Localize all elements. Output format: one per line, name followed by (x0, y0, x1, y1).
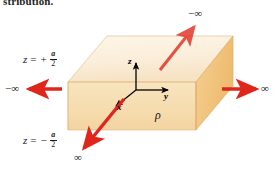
extent-arrow-front-left-label: ∞ (74, 152, 82, 163)
extent-arrow-back-right-label: −∞ (188, 8, 202, 19)
top-plane-sign: + (40, 54, 48, 65)
top-plane-boundary-label: z = + a 2 (23, 50, 57, 69)
bottom-plane-numerator: a (50, 131, 56, 139)
top-plane-denominator: 2 (50, 60, 56, 68)
bottom-plane-boundary-label: z = − a 2 (23, 131, 57, 150)
top-plane-variable: z (23, 54, 27, 65)
bottom-plane-equals: = (29, 135, 37, 146)
axis-z-label: z (128, 57, 132, 66)
extent-arrow-right-label: ∞ (261, 83, 269, 94)
bottom-plane-variable: z (23, 135, 27, 146)
bottom-plane-sign: − (40, 135, 48, 146)
top-plane-numerator: a (50, 50, 56, 58)
bottom-plane-fraction: a 2 (50, 131, 57, 150)
top-plane-equals: = (29, 54, 37, 65)
slab-of-charge-figure: stribution. (0, 0, 278, 172)
charge-density-label: ρ (155, 109, 161, 121)
top-plane-fraction: a 2 (50, 50, 57, 69)
extent-arrow-left-label: −∞ (5, 83, 19, 94)
axis-y-label: y (164, 92, 168, 101)
charge-slab-shape (68, 36, 233, 130)
slab-front-face (68, 82, 196, 130)
bottom-plane-denominator: 2 (50, 141, 56, 149)
axis-x-label: x (117, 103, 122, 112)
